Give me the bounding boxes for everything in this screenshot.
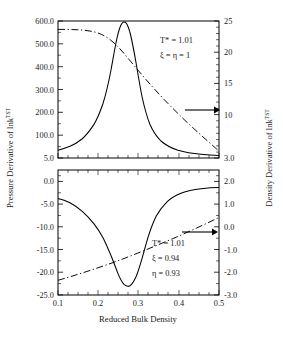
bottom-annotation-eta: η = 0.93 — [152, 269, 180, 278]
bottom-left-tick-label: -25.0 — [37, 291, 54, 300]
top-left-tick-label: 5.0 — [44, 154, 54, 163]
bottom-right-tick-label: -3.0 — [224, 291, 237, 300]
bottom-panel-arrow-icon — [182, 229, 218, 236]
bottom-right-tick-label: 2.0 — [224, 177, 234, 186]
top-right-minor-ticks — [216, 27, 219, 152]
bottom-bottom-axis-ticks — [58, 290, 219, 295]
bottom-solid-curve — [58, 188, 219, 287]
top-solid-curve — [58, 22, 219, 155]
top-left-tick-label: 600.0 — [35, 17, 54, 26]
bottom-left-tick-label: 0.0 — [44, 177, 54, 186]
x-tick-label: 0.1 — [53, 299, 63, 308]
dual-panel-chart: 600.0 500.0 400.0 300.0 200.0 100.0 5.0 … — [0, 0, 283, 340]
bottom-annotation-xi: ξ = 0.94 — [152, 254, 180, 263]
x-axis-title: Reduced Bulk Density — [99, 314, 178, 324]
bottom-panel: 0.0 -5.0 -10.0 -15.0 -20.0 -25.0 2.0 1.0… — [37, 170, 237, 300]
top-dashdot-curve — [58, 29, 219, 151]
bottom-left-tick-label: -20.0 — [37, 268, 54, 277]
y-axis-left-text: Pressure Derivative of lnk — [5, 117, 15, 208]
top-panel: 600.0 500.0 400.0 300.0 200.0 100.0 5.0 … — [35, 17, 234, 163]
top-panel-arrow-icon — [185, 107, 220, 114]
top-annotation-parameters: ξ = η = 1 — [160, 51, 190, 60]
top-right-tick-label: 15 — [224, 79, 232, 88]
top-left-tick-label: 200.0 — [35, 108, 54, 117]
x-tick-label: 0.4 — [174, 299, 185, 308]
bottom-left-tick-label: -5.0 — [41, 200, 54, 209]
top-left-tick-label: 100.0 — [35, 131, 54, 140]
x-axis-tick-labels: 0.1 0.2 0.3 0.4 0.5 — [53, 299, 224, 308]
top-annotation-temperature: T* = 1.01 — [160, 36, 193, 45]
y-axis-right-superscript: TST — [264, 109, 270, 120]
bottom-right-tick-label: -2.0 — [224, 268, 237, 277]
top-right-tick-label: 25 — [224, 17, 232, 26]
top-panel-frame — [58, 21, 219, 158]
top-right-tick-label: 3.0 — [224, 154, 234, 163]
bottom-right-tick-label: -1.0 — [224, 246, 237, 255]
top-right-tick-label: 10 — [224, 111, 232, 120]
bottom-annotation-temperature: T* = 1.01 — [152, 239, 185, 248]
top-right-tick-label: 20 — [224, 48, 232, 57]
top-left-tick-label: 400.0 — [35, 63, 54, 72]
figure-container: 600.0 500.0 400.0 300.0 200.0 100.0 5.0 … — [0, 0, 283, 340]
y-axis-title-right: Density Derivative of lnkTST — [264, 109, 274, 207]
bottom-right-tick-label: 1.0 — [224, 200, 234, 209]
x-tick-label: 0.5 — [214, 299, 224, 308]
y-axis-right-text: Density Derivative of lnk — [264, 118, 274, 206]
top-left-major-ticks — [58, 21, 63, 158]
bottom-left-tick-label: -15.0 — [37, 246, 54, 255]
x-tick-label: 0.2 — [93, 299, 103, 308]
y-axis-left-superscript: TST — [5, 107, 11, 118]
x-tick-label: 0.3 — [133, 299, 143, 308]
bottom-top-axis-ticks — [68, 170, 209, 175]
bottom-left-tick-label: -10.0 — [37, 223, 54, 232]
y-axis-title-left: Pressure Derivative of lnkTST — [5, 107, 15, 208]
top-left-tick-label: 300.0 — [35, 86, 54, 95]
bottom-right-tick-label: 0.0 — [224, 223, 234, 232]
top-left-tick-label: 500.0 — [35, 40, 54, 49]
